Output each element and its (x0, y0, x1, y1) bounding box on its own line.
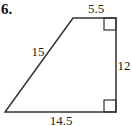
trapezoid-outline (5, 18, 116, 112)
label-bottom-side: 14.5 (50, 113, 73, 126)
label-top-side: 5.5 (88, 1, 104, 16)
problem-number: 6. (1, 1, 13, 17)
trapezoid-figure: 6. 5.5 15 12 14.5 (0, 0, 132, 126)
label-slant-side: 15 (32, 44, 45, 59)
right-angle-marker-bottom (104, 100, 116, 112)
label-right-side: 12 (118, 58, 131, 73)
right-angle-marker-top (104, 18, 116, 30)
